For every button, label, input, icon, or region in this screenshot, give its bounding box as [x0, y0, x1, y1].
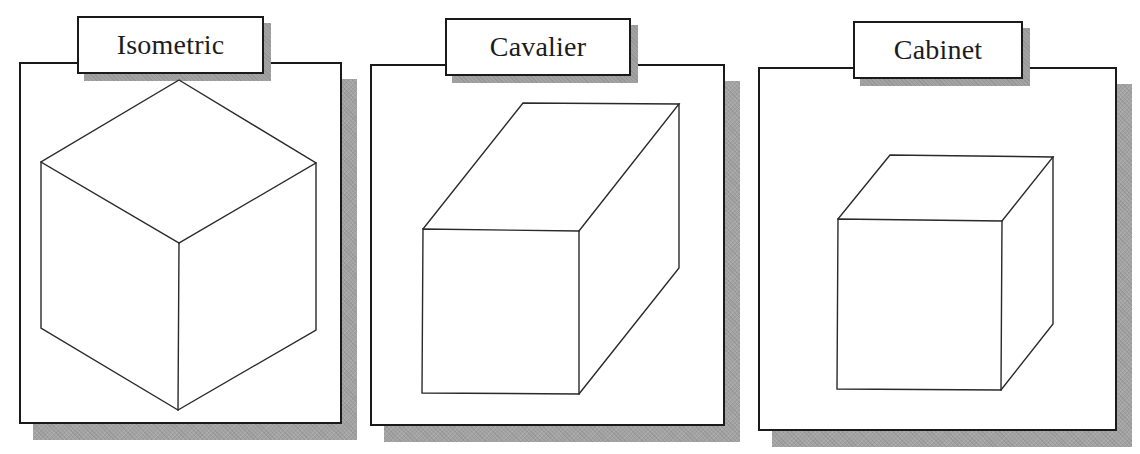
isometric-panel [19, 62, 342, 424]
cabinet-panel [758, 67, 1117, 431]
projection-comparison-figure: Isometric Cavalier Cabinet [0, 0, 1140, 454]
cavalier-label: Cavalier [490, 33, 586, 61]
cabinet-label-box: Cabinet [853, 21, 1023, 79]
cavalier-panel [370, 64, 725, 426]
cavalier-label-box: Cavalier [445, 18, 631, 76]
cabinet-label: Cabinet [894, 36, 983, 64]
isometric-label-box: Isometric [77, 16, 264, 74]
isometric-label: Isometric [117, 31, 225, 59]
